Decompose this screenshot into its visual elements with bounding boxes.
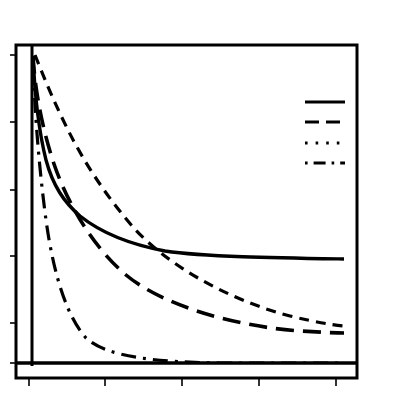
chart-canvas — [0, 0, 393, 399]
plot-background — [0, 0, 393, 399]
figure-root — [0, 0, 393, 399]
